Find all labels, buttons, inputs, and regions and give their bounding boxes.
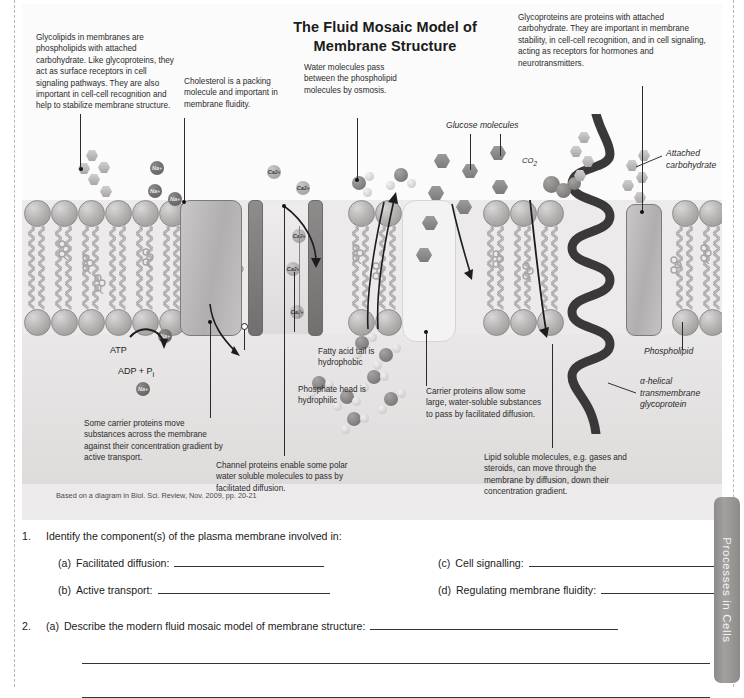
cut-line-left bbox=[14, 0, 15, 687]
annotation-channel-proteins: Channel proteins enable some polar water… bbox=[216, 460, 368, 494]
question-1-stem: Identify the component(s) of the plasma … bbox=[46, 530, 342, 542]
calcium-ion: Ca2+ bbox=[296, 181, 310, 195]
cholesterol-molecule bbox=[670, 256, 682, 276]
phospholipid-tails bbox=[537, 225, 562, 309]
phospholipid-head bbox=[132, 309, 159, 336]
phospholipid-tails bbox=[24, 225, 49, 309]
annotation-glycolipids: Glycolipids in membranes are phospholipi… bbox=[36, 32, 176, 112]
phospholipid-head bbox=[510, 200, 537, 227]
annotation-phosphate-head: Phosphate head is hydrophilic bbox=[298, 384, 382, 407]
annotation-carrier-proteins: Carrier proteins allow some large, water… bbox=[426, 386, 542, 420]
annotation-cholesterol: Cholesterol is a packing molecule and im… bbox=[184, 76, 278, 110]
question-2-stem: Describe the modern fluid mosaic model o… bbox=[64, 620, 365, 632]
cholesterol-molecule bbox=[94, 274, 106, 294]
question-1a-label: (a) bbox=[58, 557, 71, 569]
phospholipid-head bbox=[105, 200, 132, 227]
answer-blank-1c[interactable] bbox=[529, 555, 719, 567]
annotation-fatty-acid-tail: Fatty acid tail is hydrophobic bbox=[318, 346, 404, 369]
question-1b: (b) Active transport: bbox=[58, 582, 438, 596]
leader-phosphate-dot bbox=[241, 323, 248, 330]
answer-blank-1d[interactable] bbox=[601, 582, 721, 594]
channel-protein bbox=[248, 200, 322, 334]
phospholipid-head bbox=[24, 200, 51, 227]
leader-carrier-dot bbox=[424, 330, 428, 334]
annotation-glycoproteins: Glycoproteins are proteins with attached… bbox=[518, 12, 710, 69]
phospholipid bbox=[483, 225, 509, 336]
annotation-active-transport: Some carrier proteins move substances ac… bbox=[84, 418, 224, 464]
question-1-row-bd: (b) Active transport: (d) Regulating mem… bbox=[58, 582, 722, 596]
phospholipid-head bbox=[483, 309, 510, 336]
answer-line-2-1[interactable] bbox=[82, 662, 710, 664]
leader-channel-dot bbox=[282, 204, 286, 208]
phospholipid bbox=[105, 225, 131, 336]
label-atp: ATP bbox=[110, 345, 127, 355]
answer-blank-1a[interactable] bbox=[174, 555, 324, 567]
cholesterol-molecule bbox=[352, 244, 364, 264]
phospholipid-head bbox=[51, 200, 78, 227]
question-1d: (d) Regulating membrane fluidity: bbox=[438, 582, 721, 596]
phospholipid bbox=[132, 225, 158, 336]
question-1c-text: Cell signalling: bbox=[455, 557, 523, 569]
source-caption: Based on a diagram in Biol. Sci. Review,… bbox=[56, 491, 257, 500]
leader-phosphate-head bbox=[244, 328, 245, 350]
carrier-protein-active-transport bbox=[180, 200, 242, 336]
leader-cholesterol bbox=[184, 118, 185, 202]
cholesterol-molecule bbox=[522, 262, 534, 282]
phospholipid-tails bbox=[348, 225, 373, 309]
label-adp: ADP + Pi bbox=[118, 366, 154, 379]
label-phospholipid: Phospholipid bbox=[644, 346, 720, 358]
answer-blank-1b[interactable] bbox=[158, 582, 330, 594]
question-1b-text: Active transport: bbox=[76, 584, 153, 596]
leader-water-dot bbox=[355, 178, 359, 182]
phospholipid-head bbox=[348, 200, 375, 227]
glycoprotein-block bbox=[626, 204, 662, 336]
questions-section: 1. Identify the component(s) of the plas… bbox=[22, 530, 722, 698]
cholesterol-molecule bbox=[700, 244, 712, 264]
label-co2-subscript: 2 bbox=[533, 160, 537, 167]
sodium-ion: Na+ bbox=[150, 161, 164, 175]
leader-glucose-2 bbox=[500, 134, 501, 156]
phospholipid-head bbox=[375, 309, 402, 336]
phospholipid-head bbox=[105, 309, 132, 336]
sodium-ion-transported: Na+ bbox=[158, 329, 172, 343]
leader-lipid-soluble bbox=[552, 344, 553, 448]
cholesterol-molecule bbox=[58, 240, 70, 260]
phospholipid bbox=[672, 225, 698, 336]
phospholipid-head bbox=[24, 309, 51, 336]
leader-fatty-acid bbox=[294, 272, 295, 332]
phospholipid-head bbox=[537, 200, 564, 227]
phospholipid-head bbox=[51, 309, 78, 336]
phospholipid-tails bbox=[699, 225, 722, 309]
leader-carrier-protein bbox=[426, 334, 427, 386]
cholesterol-molecule bbox=[372, 262, 384, 282]
answer-blank-2a[interactable] bbox=[370, 618, 618, 630]
label-attached-carbohydrate: Attached carbohydrate bbox=[666, 148, 722, 171]
phospholipid-head bbox=[510, 309, 537, 336]
question-1a-text: Facilitated diffusion: bbox=[76, 557, 169, 569]
phospholipid-head bbox=[348, 309, 375, 336]
question-1d-label: (d) bbox=[438, 584, 451, 596]
cholesterol-molecule bbox=[492, 250, 504, 270]
question-2-label: (a) bbox=[46, 620, 59, 632]
phospholipid-head bbox=[483, 200, 510, 227]
alpha-helical-glycoprotein bbox=[562, 114, 626, 434]
sodium-ion: Na+ bbox=[148, 184, 162, 198]
phospholipid-head bbox=[132, 200, 159, 227]
cholesterol-molecule bbox=[82, 254, 94, 274]
label-co2-text: CO bbox=[522, 156, 533, 165]
section-tab[interactable]: Processes in Cells bbox=[714, 497, 740, 683]
phospholipid-head bbox=[699, 200, 722, 227]
question-2-number: 2. bbox=[22, 620, 46, 632]
leader-water bbox=[357, 118, 358, 180]
question-1: 1. Identify the component(s) of the plas… bbox=[22, 530, 722, 542]
question-2: 2. (a) Describe the modern fluid mosaic … bbox=[22, 618, 722, 632]
leader-glycolipid bbox=[80, 114, 81, 169]
leader-glycoprotein-dot bbox=[640, 210, 644, 214]
channel-wall-left bbox=[248, 200, 263, 336]
phospholipid-head bbox=[78, 200, 105, 227]
ion-path-line bbox=[299, 226, 300, 318]
label-alpha-helical-glycoprotein: α-helical transmembrane glycoprotein bbox=[640, 376, 712, 411]
leader-glycoprotein bbox=[642, 86, 643, 212]
phospholipid bbox=[699, 225, 722, 336]
cholesterol-molecule bbox=[142, 248, 154, 268]
